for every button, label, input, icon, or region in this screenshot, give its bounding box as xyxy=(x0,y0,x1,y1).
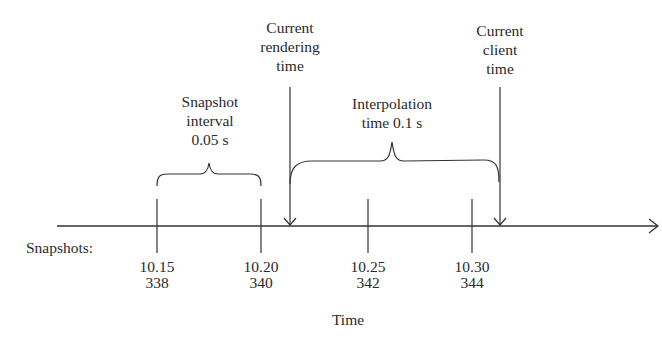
interpolation-time-label: Interpolation time 0.1 s xyxy=(331,94,453,132)
current-client-time-label: Current client time xyxy=(460,21,540,78)
snapshots-row-label: Snapshots: xyxy=(26,238,93,257)
tick-label: 10.15 338 xyxy=(127,259,187,291)
tick-label: 10.30 344 xyxy=(442,259,502,291)
tick-label: 10.25 342 xyxy=(338,259,398,291)
current-rendering-time-label: Current rendering time xyxy=(245,18,335,75)
axis-label: Time xyxy=(318,310,378,329)
tick-label: 10.20 340 xyxy=(231,259,291,291)
interpolation-brace xyxy=(290,142,499,184)
snapshot-interval-brace xyxy=(157,163,261,186)
snapshot-interval-label: Snapshot interval 0.05 s xyxy=(165,92,255,149)
